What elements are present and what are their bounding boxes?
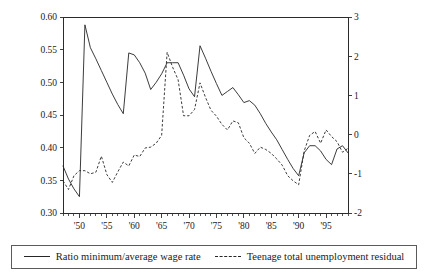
svg-text:'55: '55 bbox=[101, 221, 112, 231]
svg-text:0.40: 0.40 bbox=[40, 143, 57, 153]
chart-plot-area: 0.300.350.400.450.500.550.60-2-10123'50'… bbox=[0, 0, 430, 240]
svg-text:0.60: 0.60 bbox=[40, 12, 57, 22]
series-line-residual bbox=[63, 52, 348, 189]
svg-text:'75: '75 bbox=[211, 221, 222, 231]
legend-swatch-solid-line-icon bbox=[24, 256, 50, 258]
svg-text:'65: '65 bbox=[156, 221, 167, 231]
svg-text:-2: -2 bbox=[354, 208, 362, 218]
legend-label-residual: Teenage total unemployment residual bbox=[247, 252, 405, 263]
legend-swatch-dashed-line-icon bbox=[215, 256, 241, 258]
svg-text:-1: -1 bbox=[354, 169, 362, 179]
svg-text:0.45: 0.45 bbox=[40, 110, 57, 120]
svg-text:'85: '85 bbox=[266, 221, 277, 231]
svg-text:2: 2 bbox=[354, 52, 359, 62]
figure: 0.300.350.400.450.500.550.60-2-10123'50'… bbox=[0, 0, 430, 279]
legend-item-ratio: Ratio minimum/average wage rate bbox=[24, 252, 201, 263]
data-series bbox=[63, 25, 348, 197]
axes bbox=[63, 17, 348, 213]
svg-text:0.35: 0.35 bbox=[40, 176, 57, 186]
svg-text:'90: '90 bbox=[293, 221, 304, 231]
svg-text:0.55: 0.55 bbox=[40, 45, 57, 55]
legend-label-ratio: Ratio minimum/average wage rate bbox=[56, 252, 201, 263]
chart-legend: Ratio minimum/average wage rate Teenage … bbox=[11, 245, 417, 269]
svg-text:0.30: 0.30 bbox=[40, 208, 57, 218]
svg-text:'70: '70 bbox=[183, 221, 194, 231]
legend-item-residual: Teenage total unemployment residual bbox=[215, 252, 405, 263]
svg-text:'60: '60 bbox=[129, 221, 140, 231]
axis-tick-labels: 0.300.350.400.450.500.550.60-2-10123'50'… bbox=[40, 12, 362, 231]
svg-text:'80: '80 bbox=[238, 221, 249, 231]
svg-text:0: 0 bbox=[354, 130, 359, 140]
axis-ticks bbox=[60, 17, 352, 218]
svg-text:'50: '50 bbox=[74, 221, 85, 231]
svg-text:0.50: 0.50 bbox=[40, 78, 57, 88]
svg-text:'95: '95 bbox=[320, 221, 331, 231]
svg-text:3: 3 bbox=[354, 12, 359, 22]
svg-text:1: 1 bbox=[354, 91, 359, 101]
